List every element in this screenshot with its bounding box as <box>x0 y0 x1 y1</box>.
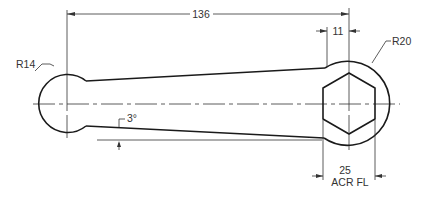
dimension-136: 136 <box>67 8 349 20</box>
hex-note-label: ACR FL <box>331 176 369 188</box>
r14-label: R14 <box>16 58 35 70</box>
leader-r14: R14 <box>16 58 54 71</box>
taper-angle-annotation: 3° <box>97 112 322 150</box>
center-lines <box>33 8 400 150</box>
dim-136-label: 136 <box>192 8 210 20</box>
part-outline <box>39 61 390 145</box>
hex-size-label: 25 <box>339 164 351 176</box>
arm-bottom-edge <box>86 126 324 138</box>
technical-drawing: 136 11 R20 R14 3° 25 ACR FL <box>0 0 428 197</box>
taper-angle-label: 3° <box>127 112 137 124</box>
right-boss-arc <box>324 61 390 145</box>
dimension-11: 11 <box>316 25 360 67</box>
dim-11-label: 11 <box>333 25 344 37</box>
r20-label: R20 <box>392 35 411 47</box>
left-boss-arc <box>39 75 86 133</box>
arm-top-edge <box>86 68 325 81</box>
leader-r20: R20 <box>372 35 411 63</box>
